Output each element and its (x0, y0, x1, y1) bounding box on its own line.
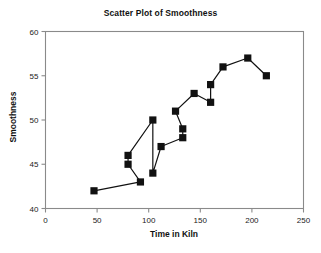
x-axis-ticks: 050100150200250 (43, 209, 310, 225)
data-point-marker: (104, 50) (149, 116, 156, 123)
plot-frame (46, 32, 304, 209)
chart-figure: Scatter Plot of Smoothness Smoothness Ti… (0, 0, 321, 253)
series-connector-line (94, 58, 266, 191)
series-data-markers: (47, 42)(80, 46)(80, 45)(92, 43)(104, 44… (90, 54, 270, 194)
data-point-marker: (104, 44) (149, 170, 156, 177)
x-tick-label: 50 (93, 216, 102, 225)
data-point-marker: (196, 57) (244, 54, 251, 61)
y-tick-label: 40 (30, 205, 39, 214)
x-tick-label: 0 (43, 216, 48, 225)
data-point-marker: (160, 54) (207, 81, 214, 88)
x-tick-label: 200 (245, 216, 259, 225)
y-tick-label: 60 (30, 28, 39, 37)
scatter-plot-canvas: 050100150200250 4045505560 (47, 42)(80, … (0, 0, 321, 253)
data-point-marker: (47, 42) (90, 187, 97, 194)
data-point-marker: (80, 45) (124, 161, 131, 168)
data-point-marker: (133, 49) (179, 125, 186, 132)
data-point-marker: (172, 56) (219, 63, 226, 70)
y-tick-label: 45 (30, 160, 39, 169)
data-point-marker: (92, 43) (137, 178, 144, 185)
x-tick-label: 100 (142, 216, 156, 225)
y-tick-label: 55 (30, 72, 39, 81)
y-axis-ticks: 4045505560 (30, 28, 46, 214)
x-tick-label: 250 (297, 216, 311, 225)
data-point-marker: (144, 53) (191, 90, 198, 97)
data-point-marker: (112, 47) (157, 143, 164, 150)
data-point-marker: (214, 55) (263, 72, 270, 79)
data-point-marker: (133, 48) (179, 134, 186, 141)
x-tick-label: 150 (194, 216, 208, 225)
data-point-marker: (160, 52) (207, 99, 214, 106)
data-point-marker: (126, 51) (172, 108, 179, 115)
data-point-marker: (80, 46) (124, 152, 131, 159)
y-tick-label: 50 (30, 116, 39, 125)
